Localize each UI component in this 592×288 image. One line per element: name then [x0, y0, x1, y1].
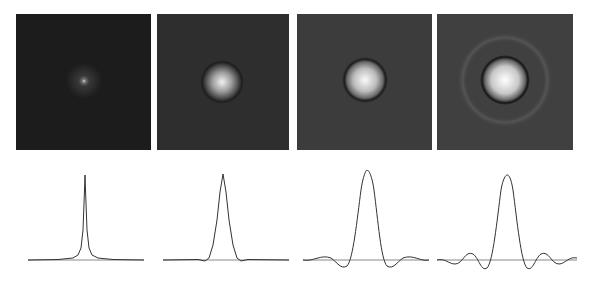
psf-image-c — [297, 14, 432, 150]
psf-image-d — [437, 14, 573, 150]
psf-image-b-graphic — [157, 14, 289, 150]
psf-image-d-graphic — [437, 14, 573, 150]
profile-plot-b-graphic — [163, 170, 289, 270]
profile-plot-b — [163, 170, 289, 270]
psf-image-b — [157, 14, 289, 150]
profile-plot-c — [303, 170, 429, 270]
profile-plot-a-graphic — [28, 170, 144, 270]
psf-image-a — [16, 14, 151, 150]
profile-plot-a — [28, 170, 144, 270]
psf-image-c-graphic — [297, 14, 432, 150]
psf-image-a-graphic — [16, 14, 151, 150]
profile-plot-c-graphic — [303, 170, 429, 270]
profile-plot-d — [437, 170, 577, 270]
profile-plot-d-graphic — [437, 170, 577, 270]
